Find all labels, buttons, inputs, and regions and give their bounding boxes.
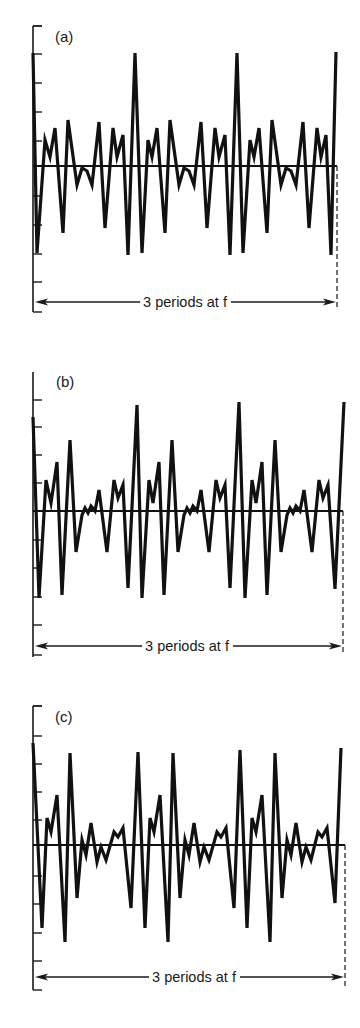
chart-geometry-a (33, 26, 337, 312)
span-label-a: 3 periods at f (143, 294, 228, 310)
panel-c: (c) 3 periods at f (33, 706, 345, 990)
span-label-b: 3 periods at f (145, 638, 230, 654)
waveform-c (33, 743, 341, 942)
span-label-c: 3 periods at f (152, 969, 237, 985)
panel-label-c: (c) (55, 708, 73, 725)
panel-label-b: (b) (56, 373, 74, 390)
waveform-figure: (a) 3 periods at f (b) 3 periods at f (c… (0, 0, 360, 1028)
panel-label-a: (a) (55, 28, 73, 45)
panel-a: (a) 3 periods at f (33, 26, 337, 312)
waveform-b (33, 402, 344, 598)
waveform-a (33, 52, 336, 255)
panel-b: (b) 3 periods at f (33, 372, 344, 657)
chart-geometry-b (33, 372, 344, 657)
chart-geometry-c (33, 706, 345, 990)
